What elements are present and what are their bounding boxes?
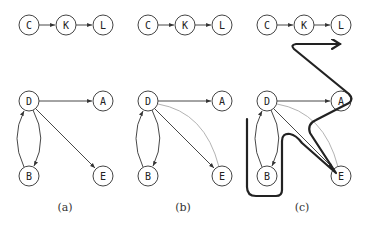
- svg-text:B: B: [145, 171, 151, 182]
- node-l: L: [331, 15, 351, 35]
- node-c: C: [19, 15, 39, 35]
- node-b: B: [19, 166, 39, 186]
- panel-a: C K L D A B E (a): [17, 15, 113, 214]
- caption-c: (c): [295, 201, 310, 214]
- svg-text:L: L: [100, 20, 106, 31]
- node-d: D: [257, 91, 277, 111]
- node-c: C: [257, 15, 277, 35]
- svg-text:D: D: [264, 96, 270, 107]
- svg-text:C: C: [145, 20, 151, 31]
- svg-text:C: C: [26, 20, 32, 31]
- edge-d-b: [33, 110, 41, 166]
- svg-text:L: L: [219, 20, 225, 31]
- edge-b-d: [136, 111, 143, 167]
- edge-d-b: [152, 110, 160, 166]
- node-k: K: [56, 15, 76, 35]
- edge-b-d: [255, 111, 262, 167]
- svg-text:D: D: [26, 96, 32, 107]
- svg-text:E: E: [338, 171, 344, 182]
- svg-text:D: D: [145, 96, 151, 107]
- svg-text:K: K: [63, 20, 69, 31]
- edge-d-e: [155, 109, 214, 168]
- edge-d-b: [271, 110, 279, 166]
- node-l: L: [212, 15, 232, 35]
- node-b: B: [138, 166, 158, 186]
- panel-c: C K L D A B E (c): [247, 15, 352, 214]
- svg-text:A: A: [219, 96, 225, 107]
- svg-text:E: E: [100, 171, 106, 182]
- edge-d-e: [36, 109, 95, 168]
- caption-b: (b): [175, 201, 191, 214]
- node-d: D: [138, 91, 158, 111]
- node-k: K: [175, 15, 195, 35]
- node-c: C: [138, 15, 158, 35]
- node-l: L: [93, 15, 113, 35]
- node-a: A: [93, 91, 113, 111]
- svg-text:C: C: [264, 20, 270, 31]
- svg-text:L: L: [338, 20, 344, 31]
- node-b: B: [257, 166, 277, 186]
- edge-b-d: [17, 111, 24, 167]
- graph-figure: C K L D A B E (a) C K L D A B E (b) C: [0, 0, 368, 227]
- node-d: D: [19, 91, 39, 111]
- node-e: E: [93, 166, 113, 186]
- svg-text:E: E: [219, 171, 225, 182]
- svg-text:A: A: [100, 96, 106, 107]
- svg-text:K: K: [301, 20, 307, 31]
- svg-text:B: B: [264, 171, 270, 182]
- panel-b: C K L D A B E (b): [136, 15, 232, 214]
- node-e: E: [212, 166, 232, 186]
- node-k: K: [294, 15, 314, 35]
- node-a: A: [212, 91, 232, 111]
- caption-a: (a): [57, 201, 72, 214]
- edge-e-d-light: [158, 104, 219, 167]
- svg-text:K: K: [182, 20, 188, 31]
- svg-text:B: B: [26, 171, 32, 182]
